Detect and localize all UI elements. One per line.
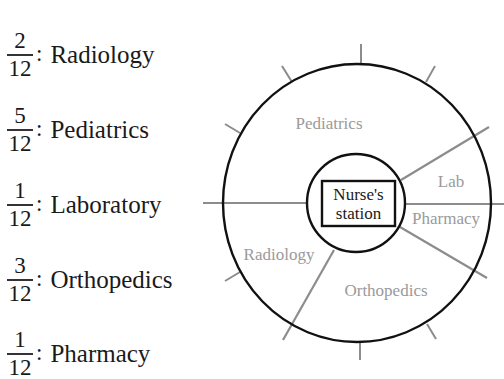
tick-60 [426,66,435,82]
tick-150 [225,124,240,133]
region-label-lab: Lab [438,172,464,191]
region-label-orthopedics: Orthopedics [344,281,427,300]
nurses-station-label-line2: station [336,204,382,223]
tick-120 [282,66,292,82]
region-label-radiology: Radiology [244,245,315,264]
nurses-station-label-line1: Nurse's [333,185,383,204]
region-label-pharmacy: Pharmacy [412,209,480,228]
region-label-pediatrics: Pediatrics [295,114,362,133]
tick-210 [225,272,240,281]
tick-300 [427,324,436,339]
